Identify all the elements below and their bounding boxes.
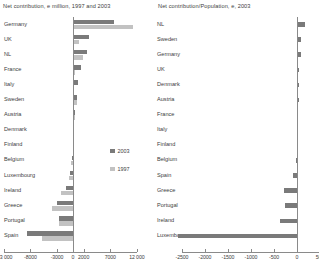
chart-row: Italy	[155, 123, 319, 138]
category-label-italy: Italy	[157, 127, 167, 133]
category-label-denmark: Denmark	[4, 127, 27, 133]
legend-item-1997[interactable]: 1997	[110, 166, 130, 172]
plot-area-left: GermanyUKNLFranceItalySwedenAustriaDenma…	[0, 0, 155, 270]
bar-2003-portugal	[59, 216, 73, 221]
x-axis-tick-label: 0	[72, 254, 75, 260]
legend-swatch-icon	[110, 149, 115, 154]
chart-row: Spain	[0, 228, 155, 243]
chart-row: Denmark	[0, 123, 155, 138]
x-axis-tick-label: -500	[269, 254, 279, 260]
chart-row: Belgium	[155, 153, 319, 168]
chart-row: Finland	[0, 138, 155, 153]
x-axis-tick-label: -1500	[222, 254, 235, 260]
category-label-nl: NL	[4, 52, 11, 58]
chart-row: Greece	[155, 183, 319, 198]
category-label-portugal: Portugal	[157, 203, 178, 209]
x-axis-tick	[274, 249, 275, 252]
x-axis-tick	[84, 249, 85, 252]
x-axis-line	[182, 252, 319, 253]
bar-1997-nl	[73, 55, 83, 60]
chart-row: NL	[155, 17, 319, 32]
bar-2003-ireland	[66, 186, 73, 191]
category-label-finland: Finland	[4, 142, 22, 148]
chart-row: Luxembourg	[0, 168, 155, 183]
x-axis-line	[4, 252, 137, 253]
chart-panel-net-contribution-per-population: Net contribution/Population, e, 2003 NLS…	[155, 0, 319, 270]
x-axis-tick-label: -1000	[245, 254, 258, 260]
charts-page: Net contribution, e million, 1997 and 20…	[0, 0, 319, 270]
chart-row: Sweden	[0, 93, 155, 108]
bar-1997-ireland	[61, 191, 73, 196]
category-label-ireland: Ireland	[4, 188, 21, 194]
legend-label: 1997	[118, 166, 130, 172]
chart-row: Austria	[0, 108, 155, 123]
chart-row: Luxembourg	[155, 228, 319, 243]
x-axis-tick	[205, 249, 206, 252]
x-axis-tick-label: -3000	[51, 254, 64, 260]
chart-row: Finland	[155, 138, 319, 153]
category-label-spain: Spain	[4, 233, 18, 239]
category-label-belgium: Belgium	[157, 157, 177, 163]
category-label-greece: Greece	[157, 188, 175, 194]
x-axis-tick-label: 500	[316, 254, 319, 260]
bar-2003-luxembourg	[178, 234, 297, 239]
bar-1997-germany	[73, 25, 133, 30]
x-axis-tick	[110, 249, 111, 252]
bar-2003-spain	[27, 231, 73, 236]
x-axis-tick	[4, 249, 5, 252]
x-axis-tick	[57, 249, 58, 252]
chart-row: Germany	[0, 17, 155, 32]
x-axis-tick-label: 0	[296, 254, 299, 260]
x-axis-tick	[73, 249, 74, 252]
zero-axis-line	[73, 17, 74, 252]
bar-2003-ireland	[280, 219, 297, 224]
bar-2003-nl	[297, 22, 305, 27]
category-label-sweden: Sweden	[4, 97, 24, 103]
category-label-uk: UK	[157, 67, 165, 73]
bar-2003-uk	[73, 35, 89, 40]
legend-label: 2003	[118, 148, 130, 154]
legend-swatch-icon	[110, 167, 115, 172]
x-axis-tick-label: -2500	[176, 254, 189, 260]
bar-1997-portugal	[59, 221, 73, 226]
x-axis-tick	[228, 249, 229, 252]
chart-panel-net-contribution: Net contribution, e million, 1997 and 20…	[0, 0, 155, 270]
bar-1997-greece	[52, 206, 73, 211]
bar-2003-greece	[57, 201, 73, 206]
x-axis-tick-label: -2000	[199, 254, 212, 260]
legend-item-2003[interactable]: 2003	[110, 148, 130, 154]
category-label-greece: Greece	[4, 203, 22, 209]
chart-row: Portugal	[0, 213, 155, 228]
category-label-austria: Austria	[4, 112, 21, 118]
category-label-austria: Austria	[157, 97, 174, 103]
chart-row: Ireland	[155, 213, 319, 228]
x-axis-tick-label: 7000	[105, 254, 116, 260]
category-label-portugal: Portugal	[4, 218, 25, 224]
category-label-finland: Finland	[157, 142, 175, 148]
category-label-uk: UK	[4, 37, 12, 43]
chart-row: UK	[155, 62, 319, 77]
bar-2003-portugal	[285, 203, 297, 208]
x-axis-tick-label: -8000	[24, 254, 37, 260]
category-label-italy: Italy	[4, 82, 14, 88]
zero-axis-line	[297, 17, 298, 252]
chart-row: Sweden	[155, 32, 319, 47]
x-axis-tick	[297, 249, 298, 252]
category-label-sweden: Sweden	[157, 37, 177, 43]
category-label-germany: Germany	[157, 52, 180, 58]
x-axis-tick	[182, 249, 183, 252]
x-axis-tick	[137, 249, 138, 252]
chart-row: Denmark	[155, 77, 319, 92]
category-label-spain: Spain	[157, 173, 171, 179]
x-axis-tick-label: 2000	[78, 254, 89, 260]
bar-2003-greece	[284, 188, 297, 193]
chart-row: Portugal	[155, 198, 319, 213]
category-label-ireland: Ireland	[157, 218, 174, 224]
x-axis-tick-label: 12 000	[129, 254, 144, 260]
x-axis-tick-label: -13 000	[0, 254, 12, 260]
bar-2003-germany	[73, 20, 114, 25]
x-axis-tick	[30, 249, 31, 252]
chart-row: France	[155, 108, 319, 123]
bar-2003-france	[73, 65, 81, 70]
bar-2003-nl	[73, 50, 87, 55]
